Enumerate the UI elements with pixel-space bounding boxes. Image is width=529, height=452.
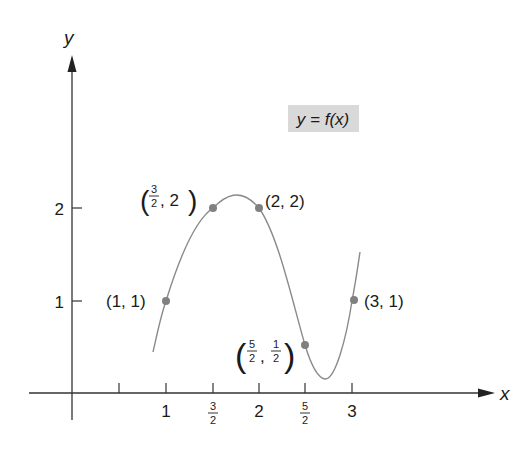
- point-2-2: [255, 204, 263, 212]
- point-label-2-2: (2, 2): [265, 192, 305, 211]
- x-ticks: [119, 383, 352, 393]
- x-axis-arrow-icon: [478, 389, 495, 398]
- y-axis-label: y: [62, 27, 75, 48]
- svg-text:1: 1: [273, 338, 279, 350]
- point-label-1-1: (1, 1): [106, 292, 146, 311]
- svg-text:, 2: , 2: [160, 191, 179, 210]
- svg-text:5: 5: [302, 400, 308, 412]
- svg-text:5: 5: [249, 338, 255, 350]
- x-tick-label-2: 2: [254, 402, 263, 421]
- y-ticks: [72, 208, 82, 301]
- svg-text:(: (: [140, 185, 150, 216]
- svg-text:(: (: [235, 336, 247, 374]
- svg-text:): ): [284, 336, 295, 374]
- point-label-3halves-2: ( 3 2 , 2 ): [140, 183, 197, 216]
- point-label-3-1: (3, 1): [364, 292, 404, 311]
- y-tick-label-2: 2: [55, 200, 64, 219]
- svg-text:2: 2: [151, 197, 157, 209]
- y-tick-label-1: 1: [55, 293, 64, 312]
- x-tick-label-1: 1: [161, 402, 170, 421]
- svg-text:2: 2: [249, 352, 255, 364]
- function-label: y = f(x): [288, 105, 359, 132]
- x-tick-label-3: 3: [347, 402, 356, 421]
- point-3halves-2: [209, 204, 217, 212]
- marked-points: [162, 204, 358, 349]
- svg-text:2: 2: [302, 414, 308, 426]
- axes: [29, 68, 480, 420]
- point-label-5halves-half: ( 5 2 , 1 2 ): [235, 336, 295, 374]
- point-3-1: [350, 296, 358, 304]
- svg-text:,: ,: [260, 347, 265, 366]
- svg-text:3: 3: [210, 400, 216, 412]
- svg-text:2: 2: [210, 414, 216, 426]
- svg-text:3: 3: [151, 183, 157, 195]
- svg-text:): ): [188, 185, 197, 216]
- function-graph: y x 1 2 3 3 2 5 2 2 1 (1, 1) (2, 2: [0, 0, 529, 452]
- point-5halves-half: [301, 341, 309, 349]
- x-tick-label-3-halves: 3 2: [208, 400, 218, 426]
- x-tick-label-5-halves: 5 2: [300, 400, 310, 426]
- svg-text:y = f(x): y = f(x): [296, 110, 349, 129]
- x-axis-label: x: [499, 383, 511, 404]
- y-axis-arrow-icon: [68, 55, 77, 72]
- svg-text:2: 2: [273, 352, 279, 364]
- point-1-1: [162, 297, 170, 305]
